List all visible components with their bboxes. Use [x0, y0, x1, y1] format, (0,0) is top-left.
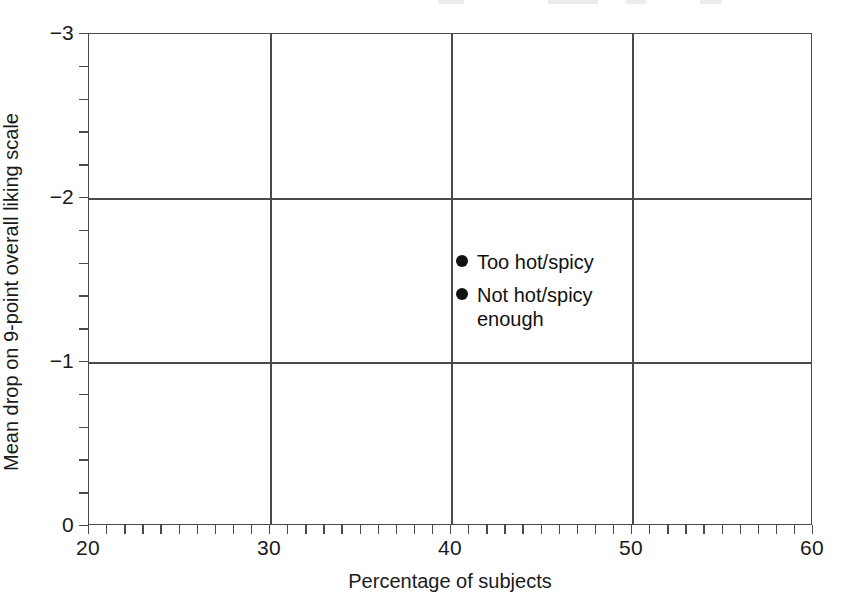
x-tick-minor [179, 525, 180, 534]
x-tick-minor [703, 525, 704, 534]
y-tick-minor [79, 131, 88, 132]
x-tick-minor [341, 525, 342, 534]
x-tick-minor [215, 525, 216, 534]
gridline-horizontal [89, 198, 811, 200]
x-tick-major [450, 525, 451, 534]
plot-area: Too hot/spicy Not hot/spicyenough [88, 33, 812, 525]
legend-item-label: Not hot/spicyenough [477, 283, 593, 331]
legend-item-label-line1: Not hot/spicy [477, 284, 593, 306]
x-tick-minor [160, 525, 161, 534]
y-tick-major [79, 197, 88, 198]
x-tick-minor [305, 525, 306, 534]
x-tick-minor [613, 525, 614, 534]
y-tick-major [79, 33, 88, 34]
y-tick-major [79, 525, 88, 526]
x-tick-minor [595, 525, 596, 534]
x-tick-label: 50 [619, 536, 643, 560]
x-tick-minor [541, 525, 542, 534]
y-axis-title: Mean drop on 9-point overall liking scal… [0, 46, 26, 538]
x-tick-minor [468, 525, 469, 534]
chart-figure: Too hot/spicy Not hot/spicyenough 203040… [0, 0, 847, 611]
x-tick-minor [685, 525, 686, 534]
y-tick-minor [79, 459, 88, 460]
y-tick-label: −2 [50, 185, 74, 209]
x-tick-major [88, 525, 89, 534]
x-tick-minor [142, 525, 143, 534]
y-tick-minor [79, 230, 88, 231]
y-tick-minor [79, 427, 88, 428]
gridline-horizontal [89, 362, 811, 364]
y-tick-major [79, 361, 88, 362]
y-tick-minor [79, 492, 88, 493]
x-tick-minor [323, 525, 324, 534]
chart-legend: Too hot/spicy Not hot/spicyenough [456, 250, 646, 340]
x-tick-minor [776, 525, 777, 534]
x-tick-minor [233, 525, 234, 534]
x-tick-minor [740, 525, 741, 534]
x-tick-label: 60 [800, 536, 824, 560]
x-tick-minor [378, 525, 379, 534]
x-tick-minor [577, 525, 578, 534]
y-tick-minor [79, 66, 88, 67]
x-tick-minor [722, 525, 723, 534]
x-tick-major [631, 525, 632, 534]
x-tick-minor [758, 525, 759, 534]
y-tick-label: 0 [62, 513, 74, 537]
y-tick-minor [79, 263, 88, 264]
x-tick-minor [649, 525, 650, 534]
x-tick-minor [287, 525, 288, 534]
x-tick-minor [360, 525, 361, 534]
y-tick-minor [79, 328, 88, 329]
cropped-header-artifact [430, 0, 760, 4]
x-axis-title: Percentage of subjects [88, 570, 812, 593]
x-tick-minor [794, 525, 795, 534]
x-tick-minor [124, 525, 125, 534]
x-tick-minor [251, 525, 252, 534]
x-tick-major [269, 525, 270, 534]
x-tick-major [812, 525, 813, 534]
y-tick-label: −3 [50, 21, 74, 45]
gridline-vertical [451, 34, 453, 524]
x-tick-minor [432, 525, 433, 534]
y-tick-minor [79, 99, 88, 100]
x-tick-minor [197, 525, 198, 534]
legend-marker-icon [456, 255, 468, 267]
y-tick-minor [79, 164, 88, 165]
x-tick-label: 40 [438, 536, 462, 560]
x-tick-label: 20 [76, 536, 100, 560]
x-tick-minor [504, 525, 505, 534]
legend-marker-icon [456, 288, 468, 300]
y-tick-label: −1 [50, 349, 74, 373]
gridline-vertical [270, 34, 272, 524]
legend-item-label-line2: enough [477, 308, 544, 330]
legend-item[interactable]: Not hot/spicyenough [456, 283, 646, 331]
x-tick-minor [396, 525, 397, 534]
x-tick-minor [414, 525, 415, 534]
x-tick-minor [486, 525, 487, 534]
legend-item[interactable]: Too hot/spicy [456, 250, 646, 274]
x-tick-minor [667, 525, 668, 534]
y-tick-minor [79, 394, 88, 395]
x-tick-label: 30 [257, 536, 281, 560]
legend-item-label: Too hot/spicy [477, 250, 594, 274]
x-tick-minor [559, 525, 560, 534]
y-tick-minor [79, 295, 88, 296]
x-tick-minor [106, 525, 107, 534]
x-tick-minor [522, 525, 523, 534]
